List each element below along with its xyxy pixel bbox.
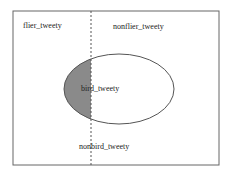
label-bird: bird_tweety <box>81 84 119 93</box>
label-nonflier: nonflier_tweety <box>113 22 164 31</box>
venn-diagram: flier_tweety nonflier_tweety bird_tweety… <box>0 0 231 176</box>
label-nonbird: nonbird_tweety <box>79 142 129 151</box>
label-flier: flier_tweety <box>23 21 62 30</box>
